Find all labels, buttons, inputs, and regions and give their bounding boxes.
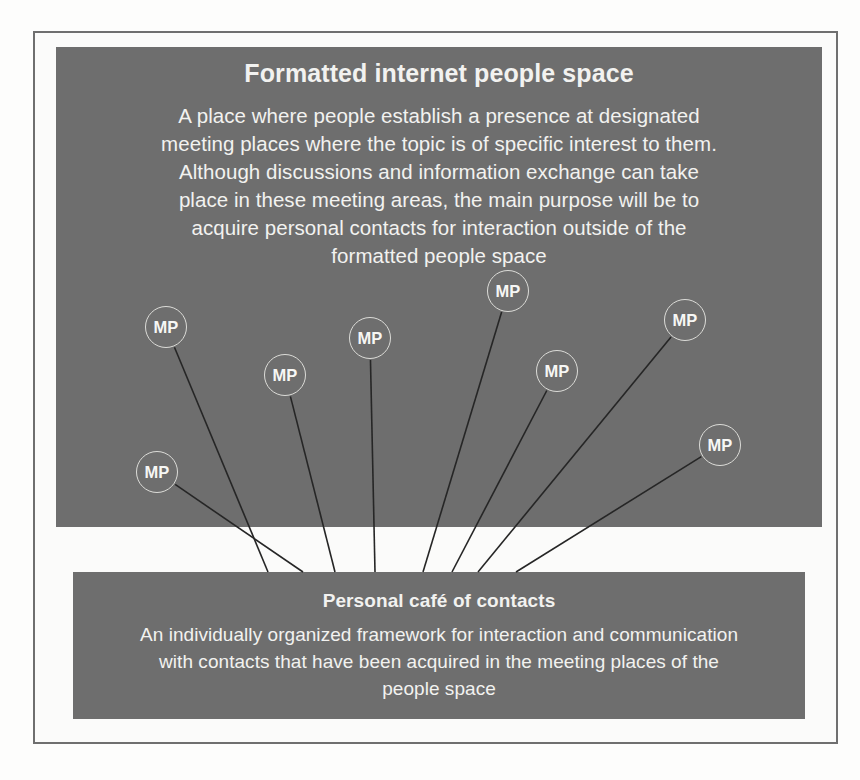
people-space-description: A place where people establish a presenc… xyxy=(159,88,719,270)
meeting-place-node-label: MP xyxy=(707,436,732,455)
personal-cafe-description: An individually organized framework for … xyxy=(139,612,739,703)
meeting-place-node-label: MP xyxy=(153,318,178,337)
meeting-place-node-label: MP xyxy=(672,311,697,330)
meeting-place-node[interactable]: MP xyxy=(664,299,706,341)
personal-cafe-panel: Personal café of contacts An individuall… xyxy=(73,572,805,719)
meeting-place-node-label: MP xyxy=(495,282,520,301)
meeting-place-node-label: MP xyxy=(544,362,569,381)
meeting-place-node[interactable]: MP xyxy=(136,451,178,493)
meeting-place-node[interactable]: MP xyxy=(349,317,391,359)
meeting-place-node-label: MP xyxy=(357,329,382,348)
people-space-title: Formatted internet people space xyxy=(56,47,822,88)
meeting-place-node-label: MP xyxy=(272,366,297,385)
diagram-canvas: Formatted internet people space A place … xyxy=(0,0,860,780)
personal-cafe-title: Personal café of contacts xyxy=(73,572,805,612)
meeting-place-node[interactable]: MP xyxy=(264,354,306,396)
meeting-place-node[interactable]: MP xyxy=(699,424,741,466)
meeting-place-node[interactable]: MP xyxy=(536,350,578,392)
meeting-place-node-label: MP xyxy=(144,463,169,482)
meeting-place-node[interactable]: MP xyxy=(487,270,529,312)
meeting-place-node[interactable]: MP xyxy=(145,306,187,348)
